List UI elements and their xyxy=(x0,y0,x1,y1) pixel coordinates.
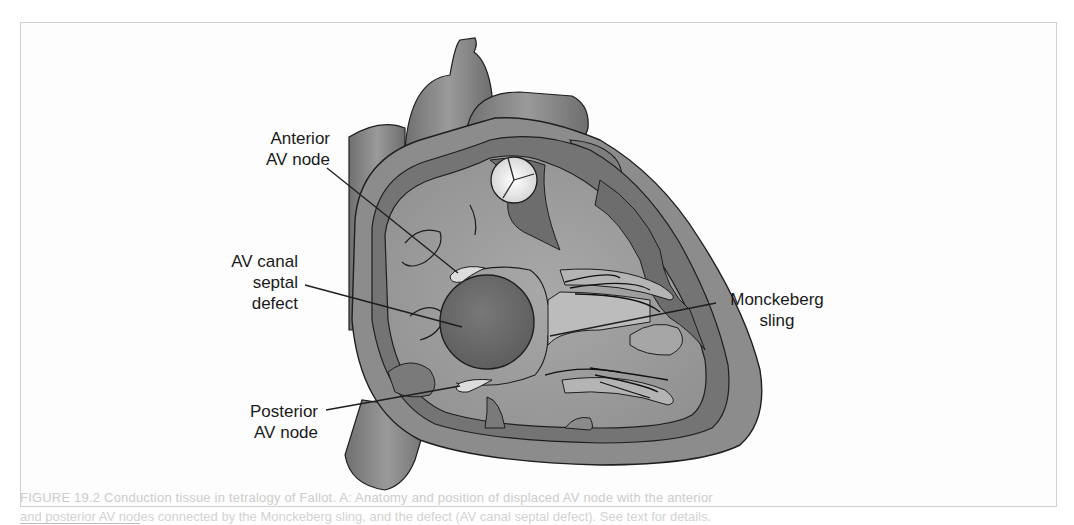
label-posterior-av-node: Posterior AV node xyxy=(216,401,318,443)
figure-caption-ghost-line-2: and posterior AV nodes connected by the … xyxy=(20,509,1060,524)
pulmonary-valve-icon xyxy=(491,157,537,203)
heart-diagram xyxy=(0,0,1074,525)
label-monckeberg-sling: Monckeberg sling xyxy=(722,289,832,331)
caption-rule xyxy=(20,523,140,524)
av-canal-septal-defect xyxy=(440,275,534,369)
label-av-canal-septal-defect: AV canal septal defect xyxy=(200,251,298,314)
label-anterior-av-node: Anterior AV node xyxy=(234,128,330,170)
figure-caption-ghost-line-1: FIGURE 19.2 Conduction tissue in tetralo… xyxy=(20,490,1060,505)
